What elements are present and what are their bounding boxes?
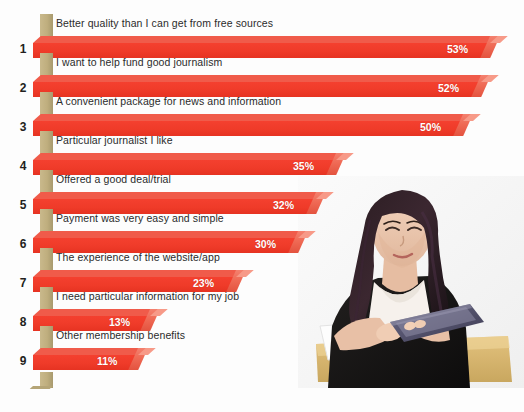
bar: 11% xyxy=(33,348,138,370)
bar-rank: 6 xyxy=(14,238,32,250)
bar: 53% xyxy=(33,36,490,58)
bar-value: 52% xyxy=(438,83,459,94)
bar-rank: 9 xyxy=(14,355,32,367)
side-strip-foot xyxy=(30,386,53,389)
bar-top-face xyxy=(33,75,489,82)
bar-value: 13% xyxy=(109,317,130,328)
bar-rank: 1 xyxy=(14,43,32,55)
bar-label: Better quality than I can get from free … xyxy=(56,18,273,29)
bar-top-face xyxy=(33,348,146,355)
bar-value: 30% xyxy=(255,239,276,250)
bar-rank: 8 xyxy=(14,316,32,328)
bar: 32% xyxy=(33,192,316,214)
bar-label: Other membership benefits xyxy=(56,330,185,341)
bar-label: A convenient package for news and inform… xyxy=(56,96,281,107)
bar-label: Payment was very easy and simple xyxy=(56,213,224,224)
bar-value: 23% xyxy=(193,278,214,289)
bar-rank: 3 xyxy=(14,121,32,133)
bar-label: I need particular information for my job xyxy=(56,291,239,302)
bar-value: 32% xyxy=(273,200,294,211)
bar-top-face xyxy=(33,114,471,121)
bar: 50% xyxy=(33,114,463,136)
bar-label: Offered a good deal/trial xyxy=(56,174,171,185)
bar-top-face xyxy=(33,270,244,277)
bar-rank: 7 xyxy=(14,277,32,289)
bar-top-face xyxy=(33,153,344,160)
bar-value: 50% xyxy=(420,122,441,133)
bar-value: 53% xyxy=(447,44,468,55)
bar-value: 11% xyxy=(97,356,117,367)
bar: 35% xyxy=(33,153,336,175)
bar: 23% xyxy=(33,270,236,292)
bar-rank: 4 xyxy=(14,160,32,172)
bar-rank: 2 xyxy=(14,82,32,94)
infographic-chart: Better quality than I can get from free … xyxy=(0,0,524,412)
bar-label: I want to help fund good journalism xyxy=(56,57,222,68)
bar: 52% xyxy=(33,75,481,97)
bar-value: 35% xyxy=(293,161,314,172)
bar-top-face xyxy=(33,309,158,316)
bar-front-face xyxy=(33,355,138,370)
bar-top-face xyxy=(33,36,498,43)
bar-top-face xyxy=(33,192,324,199)
bar-rank: 5 xyxy=(14,199,32,211)
bar: 30% xyxy=(33,231,298,253)
bar-top-face xyxy=(33,231,306,238)
bar-label: The experience of the website/app xyxy=(56,252,220,263)
bar-rows: Better quality than I can get from free … xyxy=(0,0,524,412)
bar-label: Particular journalist I like xyxy=(56,135,173,146)
